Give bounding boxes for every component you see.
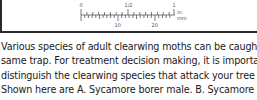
ruler-label-20: 20 [152,22,158,28]
caption-paragraph: Various species of adult clearwing moths… [1,40,257,97]
ruler-label-10: 10 [115,22,121,28]
ruler-label-0: 0 [80,2,83,8]
text-line: Shown here are A. Sycamore borer male. B… [1,83,257,97]
ruler-unit-mm: mm [177,15,187,21]
ruler-label-1: 1 [173,2,176,8]
ruler-label-half: 1/2 [125,2,133,8]
text-line: same trap. For treatment decision making… [1,54,257,68]
text-line: distinguish the clearwing species that a… [1,69,257,83]
scale-ruler: 0 1/2 1 10 20 in. mm [0,0,257,33]
text-line: Various species of adult clearwing moths… [1,40,257,54]
